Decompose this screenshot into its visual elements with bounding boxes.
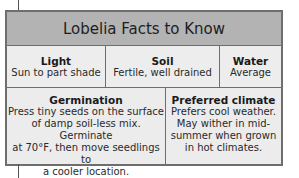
leader-line-bottom <box>18 164 19 178</box>
germination-heading: Germination <box>49 94 122 106</box>
light-value: Sun to part shade <box>11 67 100 79</box>
soil-heading: Soil <box>152 55 174 67</box>
water-cell: Water Average <box>220 46 281 87</box>
water-heading: Water <box>233 55 269 67</box>
soil-value: Fertile, well drained <box>113 67 212 79</box>
climate-cell: Preferred climate Prefers cool weather. … <box>166 88 281 164</box>
lobelia-facts-box: Lobelia Facts to Know Light Sun to part … <box>5 10 283 166</box>
details-row: Germination Press tiny seeds on the surf… <box>7 88 281 164</box>
germination-cell: Germination Press tiny seeds on the surf… <box>7 88 166 164</box>
box-title: Lobelia Facts to Know <box>7 12 281 46</box>
light-cell: Light Sun to part shade <box>7 46 106 87</box>
quick-facts-row: Light Sun to part shade Soil Fertile, we… <box>7 46 281 88</box>
climate-text: Prefers cool weather. May wither in mid-… <box>171 106 277 154</box>
climate-heading: Preferred climate <box>172 94 276 106</box>
light-heading: Light <box>41 55 71 67</box>
germination-text: Press tiny seeds on the surface of damp … <box>7 106 165 178</box>
soil-cell: Soil Fertile, well drained <box>106 46 220 87</box>
water-value: Average <box>230 67 271 79</box>
